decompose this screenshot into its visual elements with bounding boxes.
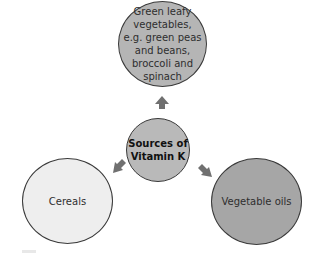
arrow-up-icon [155,96,169,109]
caption-mark [22,250,36,253]
arrows [0,0,312,257]
arrow-down-left-icon [113,159,126,173]
arrow-down-right-icon [198,164,212,177]
